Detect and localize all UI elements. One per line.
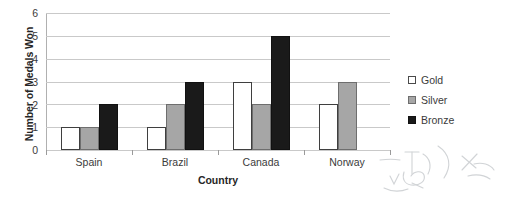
legend-label: Gold <box>421 74 443 86</box>
x-tick-3 <box>304 150 305 155</box>
legend-label: Silver <box>421 94 447 106</box>
gold-swatch-icon <box>408 76 416 84</box>
bar-spain-silver <box>80 127 99 150</box>
chart-legend: GoldSilverBronze <box>408 70 488 130</box>
bar-brazil-gold <box>147 127 166 150</box>
bar-norway-gold <box>319 104 338 150</box>
bar-group-canada <box>218 13 304 150</box>
y-tick-3: 3 <box>8 77 38 87</box>
silver-swatch-icon <box>408 96 416 104</box>
x-axis-title: Country <box>46 174 390 186</box>
y-tick-0: 0 <box>8 145 38 155</box>
y-tick-6: 6 <box>8 8 38 18</box>
y-axis-tick-labels: 6 5 4 3 2 1 0 <box>8 0 38 197</box>
bar-group-brazil <box>132 13 218 150</box>
pencil-scribble-artifact <box>378 126 507 197</box>
x-tick-1 <box>132 150 133 155</box>
bar-brazil-silver <box>166 104 185 150</box>
bar-group-spain <box>46 13 132 150</box>
bar-canada-silver <box>252 104 271 150</box>
x-label-brazil: Brazil <box>132 156 218 168</box>
bar-spain-bronze <box>99 104 118 150</box>
plot-area <box>46 13 390 150</box>
medals-bar-chart: Number of Medals Won 6 5 4 3 2 1 0 Spain… <box>0 0 507 197</box>
bronze-swatch-icon <box>408 116 416 124</box>
legend-item-bronze[interactable]: Bronze <box>408 110 488 130</box>
y-tick-2: 2 <box>8 100 38 110</box>
x-tick-4 <box>390 150 391 155</box>
y-tick-1: 1 <box>8 122 38 132</box>
x-label-spain: Spain <box>46 156 132 168</box>
legend-label: Bronze <box>421 114 454 126</box>
x-label-canada: Canada <box>218 156 304 168</box>
legend-item-silver[interactable]: Silver <box>408 90 488 110</box>
bar-canada-gold <box>233 82 252 151</box>
bar-brazil-bronze <box>185 82 204 151</box>
y-tick-4: 4 <box>8 54 38 64</box>
bar-group-norway <box>304 13 390 150</box>
legend-item-gold[interactable]: Gold <box>408 70 488 90</box>
x-label-norway: Norway <box>304 156 390 168</box>
bar-norway-silver <box>338 82 357 151</box>
bar-canada-bronze <box>271 36 290 150</box>
y-tick-5: 5 <box>8 31 38 41</box>
x-tick-2 <box>218 150 219 155</box>
bar-spain-gold <box>61 127 80 150</box>
x-tick-0 <box>46 150 47 155</box>
